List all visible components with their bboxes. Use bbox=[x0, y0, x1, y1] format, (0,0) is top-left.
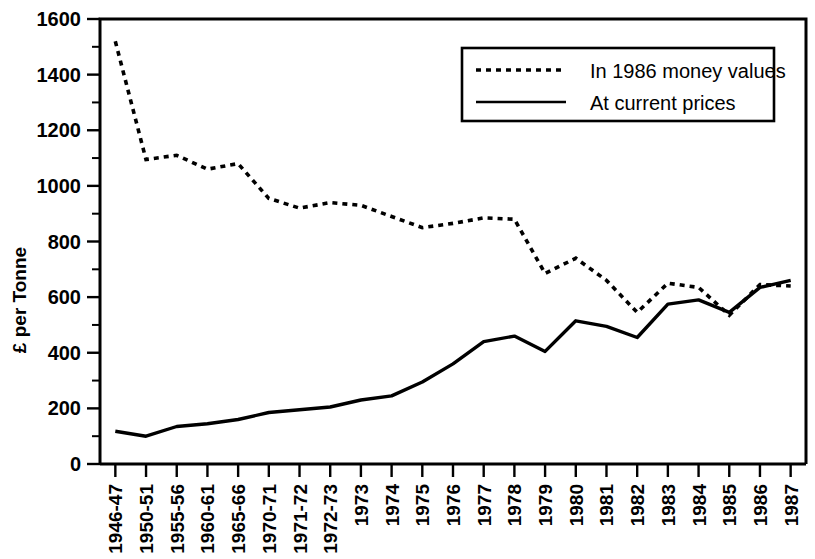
y-tick-label: 400 bbox=[48, 342, 81, 364]
x-tick-label: 1983 bbox=[658, 484, 679, 526]
y-tick-label: 1600 bbox=[37, 8, 82, 30]
x-tick-label: 1973 bbox=[351, 484, 372, 526]
x-tick-label: 1946-47 bbox=[105, 484, 126, 554]
y-tick-label: 800 bbox=[48, 231, 81, 253]
x-tick-label: 1986 bbox=[750, 484, 771, 526]
x-tick-label: 1987 bbox=[781, 484, 802, 526]
chart-legend: In 1986 money valuesAt current prices bbox=[462, 48, 786, 121]
x-tick-label: 1972-73 bbox=[320, 484, 341, 554]
y-tick-label: 1400 bbox=[37, 64, 82, 86]
x-tick-label: 1979 bbox=[535, 484, 556, 526]
line-chart: 02004006008001000120014001600 1946-47195… bbox=[0, 0, 815, 559]
x-tick-label: 1971-72 bbox=[290, 484, 311, 554]
x-tick-label: 1975 bbox=[412, 484, 433, 527]
legend-label: At current prices bbox=[590, 92, 736, 114]
x-tick-label: 1965-66 bbox=[228, 484, 249, 554]
x-tick-label: 1980 bbox=[566, 484, 587, 526]
y-tick-label: 200 bbox=[48, 397, 81, 419]
x-tick-label: 1978 bbox=[504, 484, 525, 526]
y-tick-label: 1000 bbox=[37, 175, 82, 197]
chart-container: 02004006008001000120014001600 1946-47195… bbox=[0, 0, 815, 559]
x-tick-label: 1955-56 bbox=[167, 484, 188, 554]
y-tick-label: 1200 bbox=[37, 119, 82, 141]
x-tick-label: 1960-61 bbox=[197, 484, 218, 554]
x-axis: 1946-471950-511955-561960-611965-661970-… bbox=[100, 464, 806, 554]
x-tick-label: 1950-51 bbox=[136, 484, 157, 554]
x-tick-label: 1982 bbox=[627, 484, 648, 526]
y-tick-label: 0 bbox=[70, 453, 81, 475]
y-axis: 02004006008001000120014001600 bbox=[37, 8, 101, 475]
x-tick-label: 1977 bbox=[474, 484, 495, 526]
y-tick-label: 600 bbox=[48, 286, 81, 308]
x-tick-label: 1970-71 bbox=[259, 484, 280, 554]
x-tick-label: 1974 bbox=[382, 484, 403, 527]
x-tick-label: 1981 bbox=[596, 484, 617, 527]
series-line-solid bbox=[115, 280, 790, 436]
x-tick-label: 1976 bbox=[443, 484, 464, 526]
x-tick-label: 1984 bbox=[689, 484, 710, 527]
legend-label: In 1986 money values bbox=[590, 60, 786, 82]
x-tick-label: 1985 bbox=[719, 484, 740, 527]
y-axis-title: £ per Tonne bbox=[9, 247, 30, 353]
